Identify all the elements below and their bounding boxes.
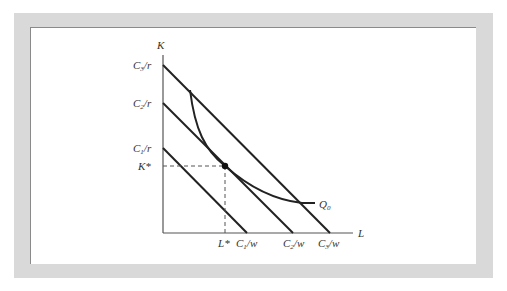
isoquant-curve-q0 — [190, 90, 315, 203]
y-tick-c3-r: C3/r — [133, 59, 152, 73]
isocost-line-c1 — [163, 148, 247, 233]
y-tick-k-star: K* — [137, 160, 151, 172]
isoquant-label-q0: Q0 — [319, 198, 331, 212]
x-axis-label: L — [357, 227, 364, 239]
x-tick-c2-w: C2/w — [283, 237, 305, 251]
x-tick-c3-w: C3/w — [318, 237, 340, 251]
y-tick-c1-r: C1/r — [133, 142, 152, 156]
x-tick-l-star: L* — [217, 237, 230, 249]
isocost-isoquant-diagram: K L C3/r C2/r C1/r K* L* C1/w C2/w C3/w … — [0, 0, 507, 291]
optimal-point — [222, 163, 228, 169]
isocost-line-c3 — [163, 65, 330, 233]
x-tick-c1-w: C1/w — [236, 237, 258, 251]
y-tick-c2-r: C2/r — [133, 97, 152, 111]
y-axis-label: K — [156, 39, 165, 51]
